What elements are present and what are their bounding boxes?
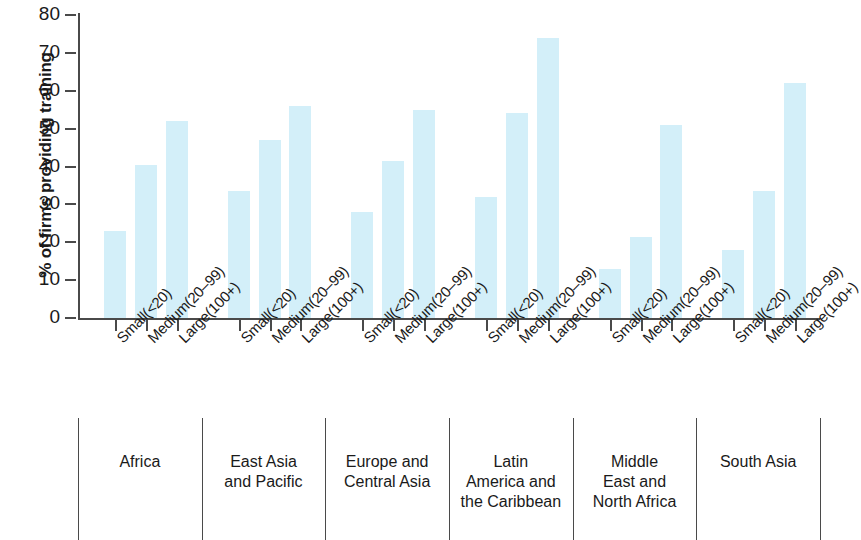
y-tick-mark [65, 241, 76, 243]
bar [259, 140, 281, 318]
y-tick-mark [65, 14, 76, 16]
group-label: Africa [78, 452, 202, 472]
group-separator [78, 418, 79, 540]
y-tick-label: 20 [39, 230, 60, 252]
bar [660, 125, 682, 318]
y-tick-mark [65, 128, 76, 130]
y-tick-label: 10 [39, 268, 60, 290]
bar [413, 110, 435, 318]
group-label: East Asiaand Pacific [202, 452, 326, 492]
bar [166, 121, 188, 318]
y-tick-label: 70 [39, 41, 60, 63]
bar [506, 113, 528, 318]
y-tick-label: 50 [39, 117, 60, 139]
y-tick-mark [65, 166, 76, 168]
group-label-line: North Africa [573, 492, 697, 512]
y-tick-label: 30 [39, 192, 60, 214]
group-separator [820, 418, 821, 540]
group-label-line: and Pacific [202, 472, 326, 492]
group-label-line: East Asia [202, 452, 326, 472]
group-label-line: Middle [573, 452, 697, 472]
group-label: MiddleEast andNorth Africa [573, 452, 697, 512]
group-label-line: America and [449, 472, 573, 492]
group-label: Europe andCentral Asia [325, 452, 449, 492]
y-tick-label: 80 [39, 3, 60, 25]
bar [784, 83, 806, 318]
group-label-line: East and [573, 472, 697, 492]
y-tick-mark [65, 279, 76, 281]
group-separator [696, 418, 697, 540]
group-label-line: the Caribbean [449, 492, 573, 512]
y-tick-mark [65, 203, 76, 205]
group-label: LatinAmerica andthe Caribbean [449, 452, 573, 512]
y-tick-label: 0 [49, 306, 60, 328]
bar [351, 212, 373, 318]
group-label-line: Latin [449, 452, 573, 472]
y-tick-label: 40 [39, 155, 60, 177]
group-label-line: Africa [78, 452, 202, 472]
group-label-line: Central Asia [325, 472, 449, 492]
group-label-line: Europe and [325, 452, 449, 472]
y-tick-mark [65, 52, 76, 54]
y-tick-mark [65, 90, 76, 92]
bar [289, 106, 311, 318]
y-tick-label: 60 [39, 79, 60, 101]
group-label-line: South Asia [696, 452, 820, 472]
bar [104, 231, 126, 318]
y-tick-mark [65, 317, 76, 319]
group-label: South Asia [696, 452, 820, 472]
bar [537, 38, 559, 318]
